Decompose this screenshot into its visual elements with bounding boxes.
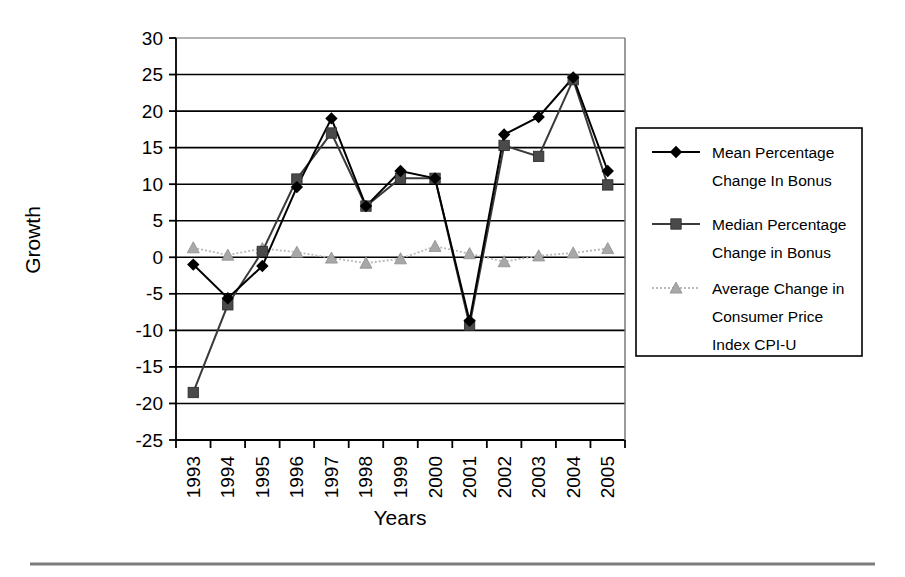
legend-label: Consumer Price [712, 308, 823, 325]
y-axis-title: Growth [21, 206, 44, 274]
legend-label: Median Percentage [712, 216, 846, 233]
gridlines-group [176, 38, 625, 440]
y-tick-label: -5 [146, 283, 163, 304]
square-marker-icon [671, 219, 681, 229]
y-tick-label: 15 [142, 137, 163, 158]
y-tick-label: -10 [136, 320, 163, 341]
x-tick-marks-group [176, 440, 625, 448]
y-tick-label: -25 [136, 430, 163, 451]
x-tick-label: 1996 [286, 456, 307, 498]
square-marker-icon [603, 180, 613, 190]
series-line [193, 80, 607, 393]
x-tick-label: 2002 [494, 456, 515, 498]
y-tick-label: 20 [142, 101, 163, 122]
x-tick-label: 2000 [425, 456, 446, 498]
legend-label: Average Change in [712, 280, 844, 297]
triangle-marker-icon [187, 242, 199, 253]
diamond-marker-icon [498, 128, 510, 140]
legend-label: Change in Bonus [712, 244, 831, 261]
square-marker-icon [499, 140, 509, 150]
triangle-marker-icon [222, 249, 234, 260]
x-tick-label: 2004 [563, 456, 584, 499]
triangle-marker-icon [602, 243, 614, 254]
x-axis-title: Years [374, 506, 427, 529]
square-marker-icon [533, 151, 543, 161]
x-tick-label: 1999 [390, 456, 411, 498]
square-marker-icon [257, 246, 267, 256]
square-marker-icon [326, 128, 336, 138]
triangle-marker-icon [429, 240, 441, 251]
x-tick-label: 1995 [252, 456, 273, 498]
legend-label: Mean Percentage [712, 144, 834, 161]
y-tick-labels-group: 302520151050-5-10-15-20-25 [136, 28, 163, 451]
y-tick-label: 25 [142, 64, 163, 85]
triangle-marker-icon [567, 247, 579, 258]
x-tick-label: 1994 [217, 456, 238, 499]
x-tick-label: 1998 [355, 456, 376, 498]
legend-label: Index CPI-U [712, 336, 796, 353]
x-tick-label: 2003 [528, 456, 549, 498]
chart-figure: 302520151050-5-10-15-20-25 1993199419951… [0, 0, 905, 577]
diamond-marker-icon [602, 165, 614, 177]
line-chart-canvas: 302520151050-5-10-15-20-25 1993199419951… [0, 0, 905, 577]
y-tick-label: 5 [152, 210, 163, 231]
x-tick-label: 1993 [183, 456, 204, 498]
triangle-marker-icon [360, 257, 372, 268]
series-line [193, 77, 607, 320]
y-tick-label: 10 [142, 174, 163, 195]
square-marker-icon [188, 387, 198, 397]
x-tick-label: 1997 [321, 456, 342, 498]
y-tick-label: -20 [136, 393, 163, 414]
y-tick-label: 0 [152, 247, 163, 268]
triangle-marker-icon [395, 253, 407, 264]
y-tick-label: -15 [136, 356, 163, 377]
data-series-layer [187, 71, 614, 397]
x-tick-label: 2005 [597, 456, 618, 498]
diamond-marker-icon [325, 112, 337, 124]
y-tick-marks-group [169, 38, 176, 440]
y-tick-label: 30 [142, 28, 163, 49]
x-tick-labels-group: 1993199419951996199719981999200020012002… [183, 456, 618, 499]
legend-label: Change In Bonus [712, 172, 832, 189]
x-tick-label: 2001 [459, 456, 480, 498]
